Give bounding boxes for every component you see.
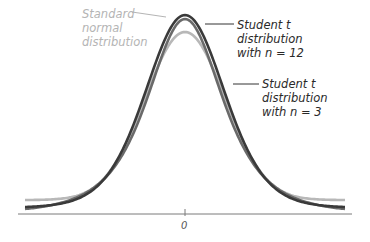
label-line: Standard — [82, 7, 148, 21]
label-line: distribution — [237, 32, 304, 46]
label-line: distribution — [82, 35, 148, 49]
student-t-n3-label: Student t distribution with n = 3 — [262, 77, 328, 119]
standard-normal-label: Standard normal distribution — [82, 7, 148, 49]
label-line: distribution — [262, 91, 328, 105]
distribution-chart — [0, 0, 370, 242]
label-line: Student t — [237, 18, 304, 32]
label-line: normal — [82, 21, 148, 35]
label-line: with n = 12 — [237, 46, 304, 60]
label-line: with n = 3 — [262, 105, 328, 119]
student-t-n12-label: Student t distribution with n = 12 — [237, 18, 304, 60]
x-tick-zero: 0 — [181, 220, 187, 231]
label-line: Student t — [262, 77, 328, 91]
